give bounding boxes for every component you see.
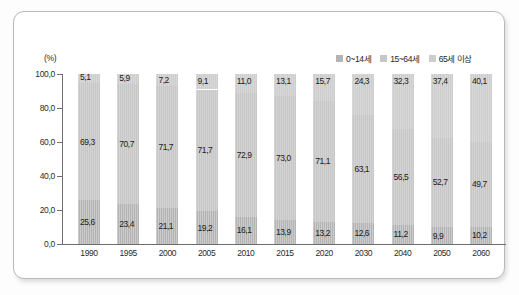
x-axis-tick-label: 2020 xyxy=(302,248,346,258)
segment-working-age[interactable]: 71,7 xyxy=(156,86,178,208)
legend-item-young[interactable]: 0~14세 xyxy=(336,52,371,64)
bar-value-label: 13,9 xyxy=(276,227,291,237)
segment-young[interactable]: 25,6 xyxy=(78,200,100,244)
bar-column[interactable]: 16,172,911,0 xyxy=(235,74,257,244)
segment-elderly[interactable]: 5,1 xyxy=(78,74,100,83)
chart-frame: (%) 0~14세 15~64세 65세 이상 0,020,040,060,08… xyxy=(13,11,505,279)
chart-legend: 0~14세 15~64세 65세 이상 xyxy=(336,52,472,64)
plot-area: 25,669,35,123,470,75,921,171,77,219,271,… xyxy=(62,74,499,244)
bar-column[interactable]: 9,952,737,4 xyxy=(431,74,453,244)
segment-young[interactable]: 16,1 xyxy=(235,217,257,244)
bar-value-label: 71,7 xyxy=(198,145,213,155)
x-axis-tick-label: 2030 xyxy=(341,248,385,258)
y-axis-tick xyxy=(57,244,62,245)
bar-value-label: 56,5 xyxy=(394,172,409,182)
segment-young[interactable]: 12,6 xyxy=(352,223,374,244)
segment-working-age[interactable]: 73,0 xyxy=(274,96,296,220)
x-axis-tick-label: 2040 xyxy=(381,248,425,258)
bar-value-label: 72,9 xyxy=(237,150,252,160)
segment-young[interactable]: 13,2 xyxy=(313,222,335,244)
x-axis-tick-label: 2010 xyxy=(224,248,268,258)
segment-young[interactable]: 19,2 xyxy=(196,211,218,244)
bar-value-label: 24,3 xyxy=(354,76,369,86)
y-axis-tick-label: 60,0 xyxy=(14,137,55,147)
bar-value-label: 71,7 xyxy=(158,142,173,152)
segment-working-age[interactable]: 72,9 xyxy=(235,93,257,217)
bar-value-label: 52,7 xyxy=(433,177,448,187)
bar-value-label: 9,1 xyxy=(198,76,208,86)
bar-value-label: 69,3 xyxy=(80,137,95,147)
bar-column[interactable]: 13,271,115,7 xyxy=(313,74,335,244)
segment-elderly[interactable]: 24,3 xyxy=(352,74,374,115)
bar-column[interactable]: 19,271,79,1 xyxy=(196,74,218,244)
y-axis-tick-label: 80,0 xyxy=(14,103,55,113)
bar-column[interactable]: 23,470,75,9 xyxy=(117,74,139,244)
x-axis-tick-label: 1995 xyxy=(106,248,150,258)
segment-working-age[interactable]: 71,7 xyxy=(196,90,218,212)
legend-item-working-age[interactable]: 15~64세 xyxy=(380,52,419,64)
y-axis-tick-label: 20,0 xyxy=(14,205,55,215)
x-axis-tick-label: 1990 xyxy=(67,248,111,258)
bar-column[interactable]: 21,171,77,2 xyxy=(156,74,178,244)
y-axis-tick-label-text: 100,0 xyxy=(15,69,55,79)
segment-young[interactable]: 13,9 xyxy=(274,220,296,244)
bar-value-label: 5,1 xyxy=(80,72,90,82)
y-axis-tick-label: 0,0 xyxy=(14,239,55,249)
segment-working-age[interactable]: 70,7 xyxy=(117,84,139,204)
bar-value-label: 7,2 xyxy=(158,75,168,85)
bar-column[interactable]: 25,669,35,1 xyxy=(78,74,100,244)
segment-working-age[interactable]: 69,3 xyxy=(78,83,100,201)
bar-column[interactable]: 10,249,740,1 xyxy=(470,74,492,244)
y-axis-tick-label: 40,0 xyxy=(14,171,55,181)
x-axis-tick-label: 2060 xyxy=(459,248,503,258)
bar-value-label: 32,3 xyxy=(394,76,409,86)
y-axis-tick-label-text: 0,0 xyxy=(15,239,55,249)
x-axis-tick-label: 2050 xyxy=(420,248,464,258)
bar-value-label: 40,1 xyxy=(472,76,487,86)
legend-swatch-icon-working-age xyxy=(380,55,387,62)
segment-working-age[interactable]: 71,1 xyxy=(313,101,335,222)
bar-value-label: 70,7 xyxy=(119,139,134,149)
legend-item-elderly[interactable]: 65세 이상 xyxy=(429,52,472,64)
segment-elderly[interactable]: 37,4 xyxy=(431,74,453,138)
legend-label-young: 0~14세 xyxy=(346,52,371,64)
bar-value-label: 13,2 xyxy=(315,228,330,238)
bar-value-label: 23,4 xyxy=(119,219,134,229)
segment-elderly[interactable]: 9,1 xyxy=(196,74,218,89)
segment-elderly[interactable]: 32,3 xyxy=(392,74,414,129)
segment-young[interactable]: 21,1 xyxy=(156,208,178,244)
segment-working-age[interactable]: 56,5 xyxy=(392,129,414,225)
segment-elderly[interactable]: 11,0 xyxy=(235,74,257,93)
segment-young[interactable]: 11,2 xyxy=(392,225,414,244)
bar-column[interactable]: 12,663,124,3 xyxy=(352,74,374,244)
segment-working-age[interactable]: 52,7 xyxy=(431,138,453,228)
bar-value-label: 11,0 xyxy=(237,76,251,86)
bar-value-label: 21,1 xyxy=(158,221,173,231)
segment-elderly[interactable]: 5,9 xyxy=(117,74,139,84)
y-axis-tick-label-text: 80,0 xyxy=(15,103,55,113)
segment-elderly[interactable]: 15,7 xyxy=(313,74,335,101)
segment-young[interactable]: 10,2 xyxy=(470,227,492,244)
segment-young[interactable]: 9,9 xyxy=(431,227,453,244)
legend-label-elderly: 65세 이상 xyxy=(439,52,472,64)
bar-value-label: 49,7 xyxy=(472,179,487,189)
segment-working-age[interactable]: 49,7 xyxy=(470,142,492,226)
legend-label-working-age: 15~64세 xyxy=(390,52,419,64)
segment-elderly[interactable]: 40,1 xyxy=(470,74,492,142)
segment-working-age[interactable]: 63,1 xyxy=(352,115,374,222)
y-axis-tick-label-text: 40,0 xyxy=(15,171,55,181)
segment-elderly[interactable]: 7,2 xyxy=(156,74,178,86)
bar-value-label: 13,1 xyxy=(276,76,291,86)
bar-value-label: 9,9 xyxy=(433,231,443,241)
bar-column[interactable]: 13,973,013,1 xyxy=(274,74,296,244)
segment-young[interactable]: 23,4 xyxy=(117,204,139,244)
segment-elderly[interactable]: 13,1 xyxy=(274,74,296,96)
bar-column[interactable]: 11,256,532,3 xyxy=(392,74,414,244)
x-axis-tick-label: 2005 xyxy=(185,248,229,258)
y-axis-tick-label-text: 60,0 xyxy=(15,137,55,147)
bar-value-label: 37,4 xyxy=(433,76,448,86)
legend-swatch-icon-young xyxy=(336,55,343,62)
bar-value-label: 25,6 xyxy=(80,217,95,227)
x-axis-tick-label: 2015 xyxy=(263,248,307,258)
x-axis-tick-label: 2000 xyxy=(145,248,189,258)
